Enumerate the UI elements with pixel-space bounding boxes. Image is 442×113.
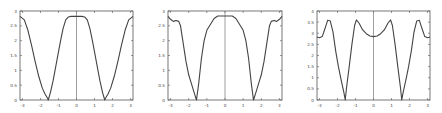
y-tick-label: 0.5 — [307, 86, 314, 91]
y-tick-label: 1.5 — [158, 53, 165, 58]
x-tick-label: -1 — [56, 103, 61, 108]
y-tick-label: 3 — [311, 31, 314, 36]
x-tick-label: -2 — [335, 103, 340, 108]
y-tick-label: 1.5 — [10, 53, 17, 58]
x-tick-label: -1 — [205, 103, 210, 108]
x-tick-label: -2 — [38, 103, 43, 108]
x-tick-label: 1 — [390, 103, 393, 108]
chart-1: 00.511.522.53-3-2-10123 — [10, 9, 133, 109]
y-tick-label: 1 — [14, 68, 17, 73]
y-tick-label: 0.5 — [158, 83, 165, 88]
x-tick-label: 2 — [260, 103, 263, 108]
x-tick-label: -3 — [168, 103, 173, 108]
y-tick-label: 0.5 — [10, 83, 17, 88]
x-tick-label: -3 — [20, 103, 25, 108]
chart-3: 00.511.522.533.54-3-2-10123 — [307, 9, 430, 109]
x-tick-label: 3 — [129, 103, 132, 108]
y-tick-label: 2 — [311, 53, 314, 58]
y-tick-label: 0 — [14, 98, 17, 103]
y-tick-label: 1 — [311, 75, 314, 80]
x-tick-label: 2 — [408, 103, 411, 108]
y-tick-label: 2.5 — [307, 42, 314, 47]
y-tick-label: 3 — [162, 9, 165, 14]
x-tick-label: 1 — [242, 103, 245, 108]
y-tick-label: 2 — [162, 38, 165, 43]
x-tick-label: -2 — [187, 103, 192, 108]
y-tick-label: 3 — [14, 9, 17, 14]
x-tick-label: 0 — [75, 103, 78, 108]
x-tick-label: -3 — [317, 103, 322, 108]
x-tick-label: 0 — [224, 103, 227, 108]
y-tick-label: 2.5 — [10, 23, 17, 28]
y-tick-label: 2.5 — [158, 23, 165, 28]
y-tick-label: 4 — [311, 9, 314, 14]
y-tick-label: 1 — [162, 68, 165, 73]
x-tick-label: 3 — [278, 103, 281, 108]
y-tick-label: 3.5 — [307, 20, 314, 25]
y-tick-label: 0 — [162, 98, 165, 103]
x-tick-label: 2 — [111, 103, 114, 108]
x-tick-label: 3 — [426, 103, 429, 108]
x-tick-label: -1 — [353, 103, 358, 108]
chart-2: 00.511.522.53-3-2-10123 — [158, 9, 282, 109]
y-tick-label: 0 — [311, 98, 314, 103]
y-tick-label: 2 — [14, 38, 17, 43]
x-tick-label: 0 — [372, 103, 375, 108]
x-tick-label: 1 — [93, 103, 96, 108]
y-tick-label: 1.5 — [307, 64, 314, 69]
charts-canvas: 00.511.522.53-3-2-10123 00.511.522.53-3-… — [0, 0, 442, 113]
